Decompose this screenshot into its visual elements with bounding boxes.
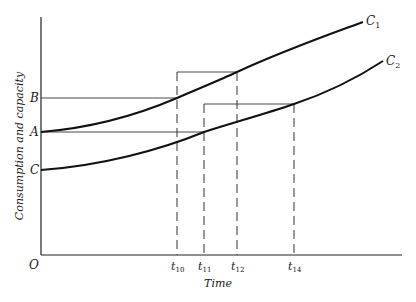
x-tick-t12: t12 (231, 260, 244, 274)
curve-c1-label: C1 (366, 14, 380, 30)
x-tick-t11: t11 (198, 260, 211, 274)
y-label-a: A (29, 125, 39, 139)
y-label-b: B (29, 91, 39, 105)
curve-c1 (41, 22, 363, 132)
consumption-capacity-diagram: C1 C2 B A C O Consumption and capacity t… (0, 0, 416, 302)
y-axis-title: Consumption and capacity (13, 71, 26, 220)
y-label-c: C (30, 163, 39, 177)
x-axis-title: Time (204, 277, 232, 290)
origin-label: O (29, 258, 39, 272)
x-tick-t14: t14 (288, 260, 302, 274)
x-tick-t10: t10 (171, 260, 184, 274)
curve-c2 (41, 61, 383, 170)
curve-c2-label: C2 (386, 54, 400, 70)
